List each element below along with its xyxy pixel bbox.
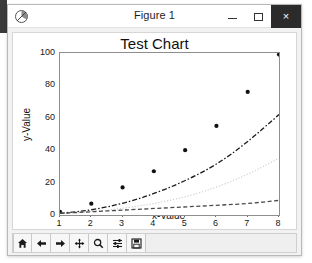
back-button[interactable] xyxy=(32,234,51,252)
fit-line xyxy=(60,115,279,214)
plot-area xyxy=(59,52,280,216)
minimize-icon xyxy=(228,18,237,19)
y-tick-label: 100 xyxy=(31,47,55,57)
close-button[interactable]: × xyxy=(271,5,301,28)
data-point xyxy=(277,53,279,57)
pan-button[interactable] xyxy=(70,234,89,252)
x-tick-label: 5 xyxy=(174,218,194,228)
y-tick-label: 80 xyxy=(31,79,55,89)
y-axis-label: y-Value xyxy=(21,90,32,160)
data-point xyxy=(246,90,250,94)
magnifier-icon xyxy=(93,238,104,249)
x-tick-label: 2 xyxy=(80,218,100,228)
arrow-right-icon xyxy=(55,238,66,249)
save-button[interactable] xyxy=(127,234,146,252)
y-tick-label: 20 xyxy=(31,177,55,187)
figure-window: Figure 1 × Test Chart y-Value x-Value 02… xyxy=(7,4,302,256)
data-point xyxy=(214,124,218,128)
maximize-icon xyxy=(254,13,263,21)
fit-line xyxy=(60,158,279,213)
navigation-toolbar xyxy=(12,233,297,253)
close-icon: × xyxy=(283,11,289,22)
home-button[interactable] xyxy=(13,234,32,252)
move-icon xyxy=(74,238,85,249)
screen-edge-background xyxy=(0,33,7,263)
figure-canvas[interactable]: Test Chart y-Value x-Value 020406080100 … xyxy=(12,32,297,230)
data-point xyxy=(120,185,124,189)
sliders-icon xyxy=(112,238,123,249)
arrow-left-icon xyxy=(36,238,47,249)
configure-subplots-button[interactable] xyxy=(108,234,127,252)
forward-button[interactable] xyxy=(51,234,70,252)
x-tick-label: 1 xyxy=(49,218,69,228)
minimize-button[interactable] xyxy=(219,5,245,28)
x-tick-label: 8 xyxy=(268,218,288,228)
data-point xyxy=(152,169,156,173)
plot-graphics xyxy=(60,53,279,215)
y-tick-label: 40 xyxy=(31,144,55,154)
chart-title: Test Chart xyxy=(13,35,296,52)
window-title-bar: Figure 1 × xyxy=(8,5,301,28)
x-tick-label: 4 xyxy=(143,218,163,228)
data-point xyxy=(89,202,93,206)
x-tick-label: 3 xyxy=(112,218,132,228)
zoom-button[interactable] xyxy=(89,234,108,252)
screen-edge-strip xyxy=(0,0,7,33)
x-tick-label: 6 xyxy=(205,218,225,228)
home-icon xyxy=(17,238,28,249)
data-point xyxy=(183,148,187,152)
x-tick-label: 7 xyxy=(237,218,257,228)
maximize-button[interactable] xyxy=(245,5,271,28)
y-tick-label: 60 xyxy=(31,112,55,122)
floppy-disk-icon xyxy=(131,238,142,249)
y-axis-ticks: 020406080100 xyxy=(31,52,55,214)
